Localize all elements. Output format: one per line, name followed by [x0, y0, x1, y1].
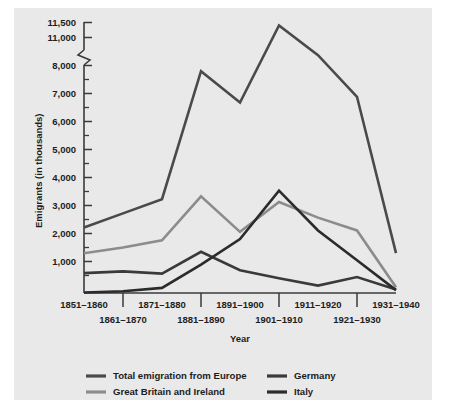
x-tick-label: 1901–1910	[255, 314, 303, 325]
y-tick-label: 8,000	[52, 60, 76, 71]
x-tick-label: 1931–1940	[372, 299, 420, 310]
y-tick-label: 4,000	[52, 172, 76, 183]
x-tick-label: 1891–1900	[216, 299, 264, 310]
x-tick-label: 1881–1890	[177, 314, 225, 325]
chart-legend: Total emigration from Europe Great Brita…	[86, 370, 336, 397]
x-tick-label: 1921–1930	[333, 314, 381, 325]
y-tick-label: 6,000	[52, 116, 76, 127]
y-tick-label: 5,000	[52, 144, 76, 155]
x-axis-title: Year	[230, 333, 250, 344]
y-axis-tick-labels: 11,500 11,000 8,000 7,000 6,000 5,000 4,…	[47, 17, 76, 267]
legend-label-italy: Italy	[294, 386, 314, 397]
series-line-italy	[84, 191, 396, 293]
chart-figure: 11,500 11,000 8,000 7,000 6,000 5,000 4,…	[14, 8, 432, 400]
y-tick-label: 11,500	[47, 17, 76, 28]
emigration-line-chart: 11,500 11,000 8,000 7,000 6,000 5,000 4,…	[14, 8, 432, 400]
series-line-total-emigration-from-europe	[84, 26, 396, 254]
legend-label-germany: Germany	[294, 370, 336, 381]
y-tick-label: 3,000	[52, 200, 76, 211]
legend-label-great-britain-and-ireland: Great Britain and Ireland	[113, 386, 225, 397]
x-tick-label: 1851–1860	[60, 299, 108, 310]
y-tick-label: 7,000	[52, 88, 76, 99]
x-axis-tick-labels: 1851–1860 1871–1880 1891–1900 1911–1920 …	[60, 299, 420, 325]
y-tick-label: 1,000	[52, 256, 76, 267]
x-tick-label: 1911–1920	[294, 299, 341, 310]
legend-label-total-emigration-from-europe: Total emigration from Europe	[113, 370, 247, 381]
series-line-germany	[84, 252, 396, 290]
y-axis-title: Emigrants (in thousands)	[33, 113, 44, 228]
x-tick-label: 1871–1880	[138, 299, 186, 310]
y-tick-label: 11,000	[47, 32, 76, 43]
y-tick-label: 2,000	[52, 228, 76, 239]
data-series-group	[84, 26, 396, 293]
x-tick-label: 1861–1870	[99, 314, 147, 325]
y-axis-break-zigzag	[78, 50, 90, 65]
